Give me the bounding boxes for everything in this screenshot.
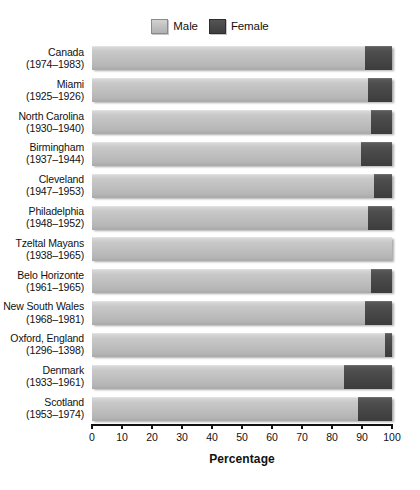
axis-tick-label: 30 — [176, 431, 188, 443]
category-years: (1938–1965) — [26, 249, 84, 261]
category-label: Oxford, England(1296–1398) — [0, 328, 88, 360]
bar-row — [92, 42, 392, 74]
bar-row — [92, 265, 392, 297]
category-name: Philadelphia — [29, 205, 84, 217]
bar-row — [92, 328, 392, 360]
category-name: Miami — [57, 78, 84, 90]
axis-tick-label: 10 — [116, 431, 128, 443]
category-name: Birmingham — [29, 141, 84, 153]
legend-entry-female: Female — [209, 19, 269, 34]
bar-row — [92, 106, 392, 138]
bar-segment-male — [92, 333, 385, 357]
axis-tick — [331, 424, 333, 429]
axis-tick-label: 70 — [296, 431, 308, 443]
bar-row — [92, 201, 392, 233]
bar-segment-male — [92, 110, 371, 134]
axis-tick — [301, 424, 303, 429]
stacked-bar — [92, 237, 392, 260]
category-years: (1937–1944) — [26, 153, 84, 165]
axis-tick-label: 20 — [146, 431, 158, 443]
legend-label-male: Male — [173, 20, 198, 32]
axis-tick-label: 90 — [356, 431, 368, 443]
category-label: Scotland(1953–1974) — [0, 392, 88, 424]
axis-tick-label: 60 — [266, 431, 278, 443]
bar-segment-male — [92, 206, 368, 230]
stacked-bar — [92, 78, 392, 101]
bar-row — [92, 392, 392, 424]
category-name: Oxford, England — [10, 332, 84, 344]
category-label: Cleveland(1947–1953) — [0, 169, 88, 201]
axis-tick — [391, 424, 393, 429]
stacked-bar — [92, 46, 392, 69]
bar-segment-male — [92, 142, 361, 166]
bar-rows — [92, 42, 392, 424]
category-label: New South Wales(1968–1981) — [0, 297, 88, 329]
axis-tick-label: 50 — [236, 431, 248, 443]
bar-segment-female — [371, 269, 392, 293]
axis-tick — [241, 424, 243, 429]
category-name: Tzeltal Mayans — [15, 237, 84, 249]
category-years: (1296–1398) — [26, 344, 84, 356]
axis-tick — [271, 424, 273, 429]
axis-tick-label: 40 — [206, 431, 218, 443]
bar-segment-male — [92, 78, 368, 102]
axis-tick — [361, 424, 363, 429]
legend-entry-male: Male — [151, 19, 198, 34]
bar-segment-male — [92, 46, 365, 70]
bar-row — [92, 297, 392, 329]
bar-row — [92, 233, 392, 265]
category-years: (1974–1983) — [26, 58, 84, 70]
bar-segment-male — [92, 301, 365, 325]
stacked-bar — [92, 110, 392, 133]
category-name: Cleveland — [39, 173, 84, 185]
category-label: North Carolina(1930–1940) — [0, 106, 88, 138]
bar-segment-female — [385, 333, 393, 357]
x-axis-title: Percentage — [92, 452, 392, 466]
category-label: Philadelphia(1948–1952) — [0, 201, 88, 233]
stacked-bar — [92, 174, 392, 197]
stacked-bar — [92, 269, 392, 292]
category-axis-labels: Canada(1974–1983)Miami(1925–1926)North C… — [0, 42, 88, 424]
axis-tick-label: 100 — [383, 431, 401, 443]
category-label: Belo Horizonte(1961–1965) — [0, 265, 88, 297]
bar-segment-male — [92, 269, 371, 293]
stacked-bar — [92, 397, 392, 420]
female-swatch-icon — [209, 19, 226, 34]
axis-tick-label: 0 — [89, 431, 95, 443]
bar-segment-female — [344, 365, 392, 389]
category-years: (1953–1974) — [26, 408, 84, 420]
bar-segment-female — [368, 206, 392, 230]
category-name: Belo Horizonte — [17, 269, 84, 281]
bar-segment-female — [358, 397, 393, 421]
bar-segment-female — [365, 46, 392, 70]
bar-segment-male — [92, 365, 344, 389]
axis-tick — [211, 424, 213, 429]
stacked-bar — [92, 206, 392, 229]
category-label: Birmingham(1937–1944) — [0, 137, 88, 169]
category-years: (1933–1961) — [26, 376, 84, 388]
legend-label-female: Female — [231, 20, 269, 32]
chart-legend: Male Female — [0, 18, 420, 34]
axis-tick — [121, 424, 123, 429]
bar-segment-female — [361, 142, 393, 166]
category-label: Miami(1925–1926) — [0, 74, 88, 106]
plot-area — [92, 42, 392, 424]
stacked-bar-chart: Male Female Canada(1974–1983)Miami(1925–… — [0, 0, 420, 490]
stacked-bar — [92, 301, 392, 324]
category-label: Canada(1974–1983) — [0, 42, 88, 74]
category-years: (1947–1953) — [26, 185, 84, 197]
category-years: (1925–1926) — [26, 90, 84, 102]
bar-row — [92, 360, 392, 392]
category-years: (1930–1940) — [26, 122, 84, 134]
category-years: (1948–1952) — [26, 217, 84, 229]
bar-row — [92, 137, 392, 169]
bar-segment-female — [371, 110, 392, 134]
category-name: Canada — [48, 46, 84, 58]
bar-segment-male — [92, 397, 358, 421]
stacked-bar — [92, 333, 392, 356]
category-label: Tzeltal Mayans(1938–1965) — [0, 233, 88, 265]
category-name: Denmark — [42, 364, 84, 376]
axis-tick — [181, 424, 183, 429]
category-name: North Carolina — [18, 110, 84, 122]
category-years: (1961–1965) — [26, 281, 84, 293]
